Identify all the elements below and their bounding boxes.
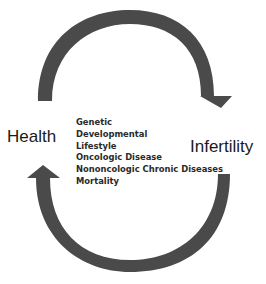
factor-developmental: Developmental [76,129,223,141]
health-label: Health [7,127,56,147]
factor-mortality: Mortality [76,176,223,188]
factor-genetic: Genetic [76,117,223,129]
factor-nononcologic-chronic-diseases: Nononcologic Chronic Diseases [76,164,223,176]
arrow-health-to-infertility [38,10,232,108]
factor-lifestyle: Lifestyle [76,141,223,153]
factors-list: Genetic Developmental Lifestyle Oncologi… [76,117,223,188]
factor-oncologic-disease: Oncologic Disease [76,152,223,164]
